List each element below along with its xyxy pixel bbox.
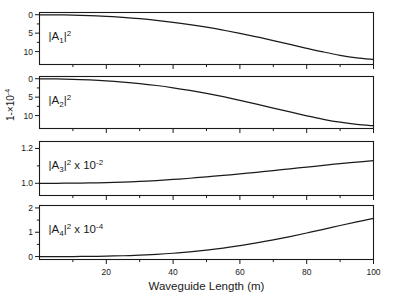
x-axis-ticklabel: 100 xyxy=(366,267,380,277)
panel-a4-label: |A4|2 x 10-4 xyxy=(49,222,104,238)
panel-a3-yticklabel: 1.2 xyxy=(21,143,33,153)
x-axis-title: Waveguide Length (m) xyxy=(149,280,265,292)
panel-a4-yticklabel: 2 xyxy=(28,203,33,213)
panel-a1-label: |A1|2 xyxy=(49,29,72,45)
x-axis-ticklabel: 60 xyxy=(235,267,245,277)
figure-panel-plot: 0510|A1|20510|A2|21.01.2|A3|2 x 10-2012|… xyxy=(0,0,393,298)
panel-a1-yticklabel: 5 xyxy=(28,28,33,38)
panel-a1-curve xyxy=(40,15,374,60)
panel-a2-yticklabel: 5 xyxy=(28,92,33,102)
y-axis-title: 1-×10-4 xyxy=(4,89,16,121)
panel-a1-yticklabel: 0 xyxy=(28,10,33,20)
panel-a2-frame xyxy=(40,77,374,129)
x-axis-ticklabel: 80 xyxy=(302,267,312,277)
panel-a4: 012|A4|2 x 10-4 xyxy=(28,203,373,264)
panel-a2-label: |A2|2 xyxy=(49,93,72,109)
panel-a2: 0510|A2|2 xyxy=(24,74,374,133)
panel-a1-yticklabel: 10 xyxy=(24,47,34,57)
panel-a1: 0510|A1|2 xyxy=(24,10,374,69)
x-axis-ticklabel: 40 xyxy=(168,267,178,277)
multi-panel-line-chart: 0510|A1|20510|A2|21.01.2|A3|2 x 10-2012|… xyxy=(0,0,393,298)
panel-a4-yticklabel: 0 xyxy=(28,252,33,262)
panel-a2-yticklabel: 0 xyxy=(28,74,33,84)
x-axis-ticklabel: 20 xyxy=(102,267,112,277)
x-axis: 20406080100Waveguide Length (m) xyxy=(102,267,381,292)
panel-a3: 1.01.2|A3|2 x 10-2 xyxy=(21,142,373,201)
panel-a4-yticklabel: 1 xyxy=(28,227,33,237)
y-axis-title-text: 1-×10-4 xyxy=(4,89,16,121)
panel-a1-frame xyxy=(40,13,374,65)
panel-a3-yticklabel: 1.0 xyxy=(21,178,33,188)
panel-a2-yticklabel: 10 xyxy=(24,111,34,121)
panel-a2-curve xyxy=(40,79,374,126)
panel-a3-label: |A3|2 x 10-2 xyxy=(49,158,104,174)
